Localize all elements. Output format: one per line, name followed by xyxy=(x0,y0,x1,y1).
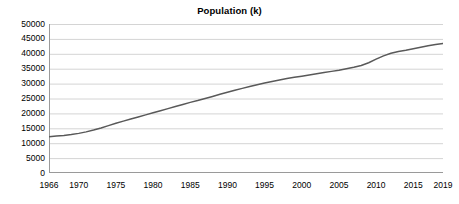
y-tick-label: 25000 xyxy=(0,94,45,103)
x-axis: 1966197019751980198519901995200020052010… xyxy=(0,180,459,194)
chart-title: Population (k) xyxy=(0,5,459,16)
population-line-chart: Population (k) 0500010000150002000025000… xyxy=(0,0,459,204)
plot-svg xyxy=(49,24,443,173)
y-tick-label: 30000 xyxy=(0,79,45,88)
x-tick-label: 1995 xyxy=(255,180,274,191)
y-tick-label: 50000 xyxy=(0,20,45,29)
x-tick-label: 1985 xyxy=(181,180,200,191)
y-tick-label: 40000 xyxy=(0,49,45,58)
x-tick-label: 2019 xyxy=(434,180,453,191)
series-line-population xyxy=(49,43,443,136)
x-tick-label: 1970 xyxy=(69,180,88,191)
y-tick-label: 45000 xyxy=(0,34,45,43)
y-axis: 0500010000150002000025000300003500040000… xyxy=(0,24,45,173)
x-tick-label: 2005 xyxy=(329,180,348,191)
y-tick-label: 35000 xyxy=(0,64,45,73)
y-tick-label: 0 xyxy=(0,169,45,178)
x-tick-label: 1975 xyxy=(106,180,125,191)
x-tick-label: 1990 xyxy=(218,180,237,191)
x-tick-label: 1966 xyxy=(40,180,59,191)
x-tick-label: 2015 xyxy=(404,180,423,191)
x-tick-label: 2010 xyxy=(367,180,386,191)
y-tick-label: 20000 xyxy=(0,109,45,118)
plot-area xyxy=(49,24,443,173)
y-tick-label: 15000 xyxy=(0,124,45,133)
y-tick-label: 5000 xyxy=(0,154,45,163)
x-tick-label: 1980 xyxy=(144,180,163,191)
x-tick-label: 2000 xyxy=(292,180,311,191)
y-tick-label: 10000 xyxy=(0,139,45,148)
gridlines xyxy=(49,25,443,159)
